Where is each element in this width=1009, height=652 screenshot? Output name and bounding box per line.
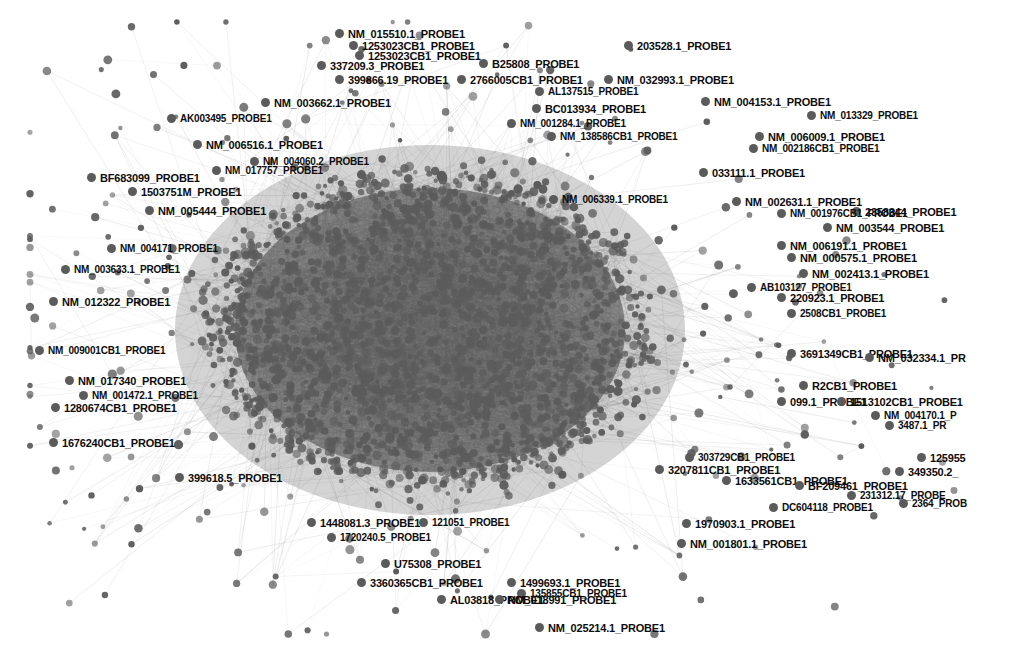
graph-node[interactable] (437, 595, 446, 604)
graph-node[interactable] (35, 346, 44, 355)
graph-node[interactable] (479, 59, 488, 68)
graph-node[interactable] (193, 140, 202, 149)
graph-node[interactable] (777, 293, 786, 302)
graph-node[interactable] (847, 491, 856, 500)
graph-node[interactable] (128, 187, 137, 196)
graph-node[interactable] (787, 309, 796, 318)
graph-node[interactable] (250, 157, 259, 166)
graph-node[interactable] (624, 41, 633, 50)
graph-node[interactable] (517, 589, 526, 598)
graph-node[interactable] (807, 111, 816, 120)
graph-node[interactable] (777, 209, 786, 218)
graph-node[interactable] (885, 421, 894, 430)
graph-node[interactable] (457, 75, 466, 84)
graph-node[interactable] (79, 391, 88, 400)
graph-node[interactable] (777, 397, 786, 406)
graph-node[interactable] (507, 578, 516, 587)
graph-node[interactable] (799, 269, 808, 278)
graph-node[interactable] (495, 595, 504, 604)
graph-node[interactable] (852, 207, 861, 216)
graph-node[interactable] (655, 465, 664, 474)
graph-node[interactable] (899, 499, 908, 508)
graph-node[interactable] (535, 87, 544, 96)
graph-node[interactable] (212, 166, 221, 175)
graph-node[interactable] (381, 559, 390, 568)
network-graph-canvas[interactable]: NM_015510.1_PROBE11253023CB1_PROBE112530… (0, 0, 1009, 652)
graph-node[interactable] (787, 253, 796, 262)
graph-node[interactable] (107, 244, 116, 253)
graph-node[interactable] (699, 168, 708, 177)
graph-node[interactable] (795, 481, 804, 490)
graph-node[interactable] (419, 518, 428, 527)
graph-node[interactable] (65, 376, 74, 385)
graph-node[interactable] (749, 144, 758, 153)
graph-node[interactable] (335, 75, 344, 84)
graph-node[interactable] (682, 519, 691, 528)
graph-node[interactable] (732, 197, 741, 206)
graph-node[interactable] (917, 453, 926, 462)
graph-node[interactable] (145, 206, 154, 215)
graph-node[interactable] (317, 61, 326, 70)
graph-node[interactable] (787, 349, 796, 358)
graph-node[interactable] (722, 476, 731, 485)
graph-node[interactable] (307, 518, 316, 527)
graph-node[interactable] (823, 223, 832, 232)
graph-node[interactable] (604, 75, 613, 84)
graph-node[interactable] (701, 97, 710, 106)
graph-node[interactable] (49, 297, 58, 306)
graph-node[interactable] (532, 104, 541, 113)
graph-node[interactable] (261, 98, 270, 107)
graph-node[interactable] (747, 283, 756, 292)
graph-node[interactable] (61, 265, 70, 274)
graph-node[interactable] (335, 29, 344, 38)
graph-node[interactable] (87, 173, 96, 182)
graph-node[interactable] (799, 381, 808, 390)
graph-node[interactable] (507, 119, 516, 128)
graph-node[interactable] (895, 467, 904, 476)
graph-node[interactable] (549, 195, 558, 204)
graph-node[interactable] (167, 114, 176, 123)
graph-node[interactable] (355, 51, 364, 60)
graph-node[interactable] (175, 473, 184, 482)
graph-node[interactable] (357, 578, 366, 587)
graph-node[interactable] (349, 41, 358, 50)
graph-node[interactable] (677, 539, 686, 548)
graph-node[interactable] (547, 132, 556, 141)
graph-node[interactable] (777, 241, 786, 250)
graph-node[interactable] (49, 438, 58, 447)
graph-node[interactable] (685, 453, 694, 462)
graph-node[interactable] (535, 623, 544, 632)
graph-node[interactable] (769, 503, 778, 512)
graph-node[interactable] (755, 132, 764, 141)
graph-node[interactable] (51, 403, 60, 412)
graph-node[interactable] (327, 533, 336, 542)
network-edges-and-nodes (0, 0, 1009, 652)
graph-node[interactable] (871, 411, 880, 420)
graph-node[interactable] (837, 397, 846, 406)
graph-node[interactable] (865, 353, 874, 362)
